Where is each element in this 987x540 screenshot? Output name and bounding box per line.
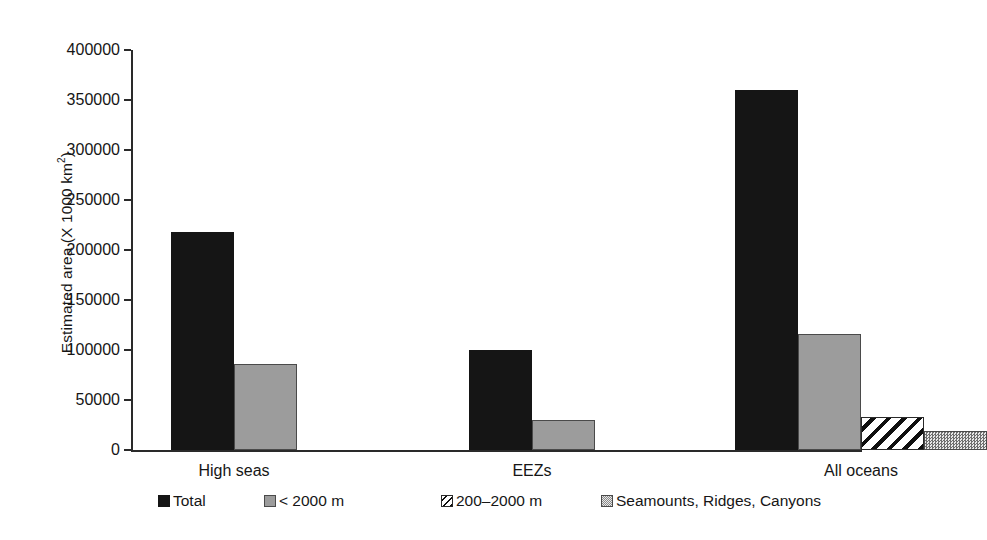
bar-total-all-oceans <box>735 90 798 450</box>
legend-item-label: Total <box>173 492 206 510</box>
chart-legend: Total< 2000 m200–2000 mSeamounts, Ridges… <box>131 492 862 516</box>
y-axis-line <box>131 50 133 451</box>
y-tick-mark <box>124 49 131 51</box>
legend-item-200-2000-m[interactable]: 200–2000 m <box>441 492 542 510</box>
solid-black-swatch <box>158 495 170 507</box>
fine-dotted-swatch <box>601 495 613 507</box>
y-tick-label: 100000 <box>0 342 120 358</box>
x-category-label-high-seas: High seas <box>134 462 334 480</box>
y-axis-title-superscript: 2 <box>56 157 67 163</box>
y-tick-label: 350000 <box>0 92 120 108</box>
bar-lt2000-eezs <box>532 420 595 450</box>
y-tick-label: 300000 <box>0 142 120 158</box>
y-tick-label: 400000 <box>0 42 120 58</box>
legend-item-seamounts-ridges-canyons[interactable]: Seamounts, Ridges, Canyons <box>601 492 821 510</box>
legend-item-label: 200–2000 m <box>456 492 542 510</box>
diagonal-hatch-swatch <box>441 495 453 507</box>
bar-mid-all-oceans <box>861 417 924 450</box>
x-category-label-eezs: EEZs <box>432 462 632 480</box>
bar-lt2000-all-oceans <box>798 334 861 450</box>
y-tick-mark <box>124 149 131 151</box>
y-tick-mark <box>124 299 131 301</box>
x-axis-line <box>131 450 862 452</box>
x-category-label-all-oceans: All oceans <box>761 462 961 480</box>
legend-item--2000-m[interactable]: < 2000 m <box>264 492 344 510</box>
y-tick-label: 150000 <box>0 292 120 308</box>
bar-total-high-seas <box>171 232 234 450</box>
plot-area: 0500001000001500002000002500003000003500… <box>131 50 862 450</box>
y-tick-label: 200000 <box>0 242 120 258</box>
legend-item-label: Seamounts, Ridges, Canyons <box>616 492 821 510</box>
solid-gray-swatch <box>264 495 276 507</box>
bar-total-eezs <box>469 350 532 450</box>
y-tick-label: 50000 <box>0 392 120 408</box>
legend-item-total[interactable]: Total <box>158 492 206 510</box>
bar-lt2000-high-seas <box>234 364 297 450</box>
y-tick-mark <box>124 199 131 201</box>
y-tick-mark <box>124 449 131 451</box>
y-tick-mark <box>124 349 131 351</box>
y-tick-mark <box>124 99 131 101</box>
y-tick-label: 0 <box>0 442 120 458</box>
legend-item-label: < 2000 m <box>279 492 344 510</box>
y-tick-mark <box>124 399 131 401</box>
y-tick-label: 250000 <box>0 192 120 208</box>
y-tick-mark <box>124 249 131 251</box>
bar-smt-all-oceans <box>924 431 987 450</box>
